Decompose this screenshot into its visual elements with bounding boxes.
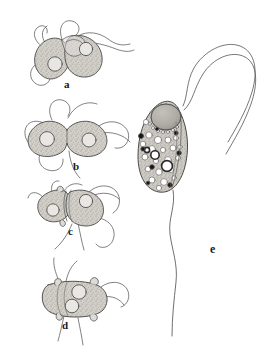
panel-label-b: b xyxy=(73,161,79,172)
panel-d-nucleus-lower xyxy=(65,299,79,313)
panel-e xyxy=(138,44,256,336)
panel-d-nucleus-upper xyxy=(72,285,86,299)
panel-e-trailing-flagellum xyxy=(170,190,177,336)
panel-label-e: e xyxy=(210,243,215,255)
panel-e-anterior-flagella xyxy=(183,44,256,154)
panel-d-papilla-lower-right xyxy=(90,314,98,321)
panel-a-nucleus-left xyxy=(48,57,62,71)
panel-c xyxy=(28,181,120,250)
panel-a xyxy=(31,21,134,86)
panel-label-c: c xyxy=(68,226,73,237)
panel-label-a: a xyxy=(64,79,70,90)
panel-label-d: d xyxy=(62,320,68,331)
panel-c-nucleus-left xyxy=(47,204,59,216)
panel-b-nucleus-right xyxy=(82,133,96,147)
panel-c-papilla-bottom xyxy=(60,220,66,226)
panel-d-papilla-upper-left xyxy=(55,279,62,285)
panel-d xyxy=(42,258,129,345)
figure-plate xyxy=(0,0,270,351)
panel-a-nucleus-right xyxy=(79,42,92,55)
panel-b-nucleus-left xyxy=(40,132,55,147)
panel-c-nucleus-right xyxy=(79,194,92,207)
